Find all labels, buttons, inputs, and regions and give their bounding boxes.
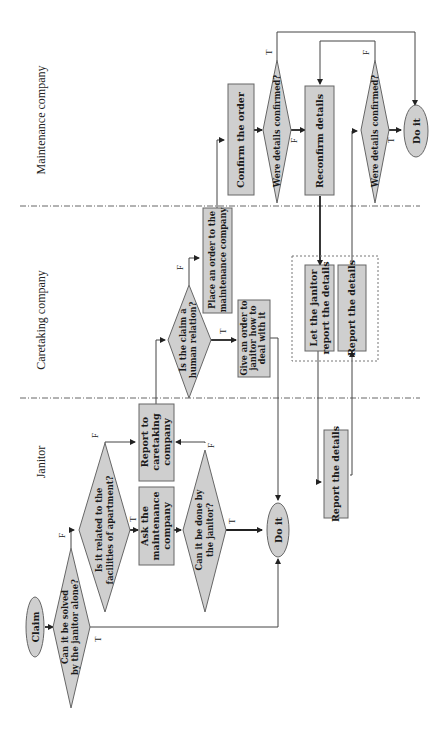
svg-text:Were details confirmed?: Were details confirmed?: [370, 75, 380, 188]
svg-text:Were details confirmed?: Were details confirmed?: [272, 75, 282, 188]
edge-report-to-human: [156, 340, 165, 404]
svg-text:facilities of apartment?: facilities of apartment?: [105, 475, 115, 584]
edge-reportcaretaking-to-confirmed2: [352, 131, 357, 265]
edge-facilities-false: [105, 442, 135, 443]
svg-text:deal with it: deal with it: [257, 312, 267, 365]
label-solved-alone-true: T: [93, 636, 103, 642]
node-do-it-janitor: Do it: [267, 503, 289, 557]
node-report-details-caretaking: Report the details: [338, 260, 366, 356]
node-decision-done-by-janitor: Can it be done by the janitor?: [183, 450, 226, 612]
edge-confirmed1-true: [277, 32, 415, 105]
node-give-order: Give an order to janitor how to deal wit…: [238, 300, 270, 377]
svg-text:Report to: Report to: [139, 417, 150, 467]
svg-text:the janitor?: the janitor?: [205, 503, 215, 557]
edge-give-to-doit: [270, 338, 278, 500]
svg-text:Let the janitor: Let the janitor: [308, 269, 319, 347]
svg-text:company: company: [161, 418, 172, 466]
edge-place-to-confirm: [217, 140, 224, 208]
svg-text:Place an order to the: Place an order to the: [207, 211, 217, 309]
svg-text:caretaking: caretaking: [150, 413, 161, 471]
svg-text:Can it be done by: Can it be done by: [194, 488, 204, 570]
svg-text:Can it be solved: Can it be solved: [60, 590, 70, 664]
edge-human-false: [189, 258, 199, 285]
svg-text:Ask the: Ask the: [139, 506, 150, 547]
svg-text:Reconfirm details: Reconfirm details: [314, 94, 325, 188]
node-decision-confirmed-2: Were details confirmed?: [361, 60, 389, 203]
node-decision-solved-alone: Can it be solved by the janitor alone?: [53, 548, 90, 708]
svg-text:maintenance: maintenance: [150, 492, 161, 561]
svg-text:company: company: [161, 502, 172, 550]
label-confirmed1-false: F: [289, 138, 299, 143]
svg-text:human relation?: human relation?: [188, 301, 198, 378]
label-human-true: T: [218, 328, 228, 334]
svg-text:by the janitor alone?: by the janitor alone?: [70, 579, 80, 675]
svg-text:maintenance company: maintenance company: [218, 207, 228, 313]
svg-text:Claim: Claim: [30, 612, 41, 643]
node-do-it-maintenance: Do it: [404, 105, 428, 157]
edge-reportjanitor-to-reportcaretaking: [350, 352, 352, 475]
svg-text:Report the details: Report the details: [330, 426, 341, 522]
svg-text:report the details: report the details: [320, 261, 331, 354]
node-let-janitor-report: Let the janitor report the details: [305, 261, 334, 354]
label-done-false: F: [206, 443, 216, 448]
label-human-false: F: [175, 265, 185, 270]
svg-text:Report the details: Report the details: [346, 260, 357, 356]
lane-label-janitor: Janitor: [34, 446, 48, 479]
label-confirmed1-true: T: [264, 49, 274, 55]
label-done-true: T: [227, 518, 237, 524]
node-decision-confirmed-1: Were details confirmed?: [263, 60, 291, 203]
lane-label-caretaking: Caretaking company: [34, 270, 48, 370]
edge-done-false: [176, 442, 205, 443]
svg-text:Confirm the order: Confirm the order: [235, 91, 246, 188]
node-report-details-janitor: Report the details: [324, 426, 348, 522]
node-claim: Claim: [26, 597, 44, 657]
label-facilities-false: F: [90, 433, 100, 438]
svg-text:Is it related to the: Is it related to the: [94, 488, 104, 573]
edge-solved-alone-false: [71, 530, 74, 548]
edge-confirmed2-false: [320, 41, 375, 84]
svg-text:Is the claim a: Is the claim a: [178, 308, 188, 372]
label-solved-alone-false: F: [57, 533, 67, 538]
node-confirm-order: Confirm the order: [228, 84, 254, 195]
svg-text:Do it: Do it: [411, 117, 422, 143]
svg-text:Do it: Do it: [273, 516, 284, 542]
node-reconfirm-details: Reconfirm details: [305, 86, 334, 195]
label-facilities-true: T: [128, 516, 138, 522]
label-confirmed2-true: T: [386, 137, 396, 143]
node-decision-facilities: Is it related to the facilities of apart…: [79, 443, 130, 612]
node-place-order: Place an order to the maintenance compan…: [203, 207, 232, 313]
node-ask-maintenance: Ask the maintenance company: [139, 487, 174, 565]
node-report-to-caretaking: Report to caretaking company: [139, 404, 174, 481]
label-confirmed2-false: F: [361, 50, 371, 55]
lane-label-maintenance: Maintenance company: [34, 66, 48, 175]
swimlane-flowchart: Maintenance company Caretaking company J…: [0, 0, 444, 735]
edge-let-to-reportjanitor: [318, 350, 321, 482]
